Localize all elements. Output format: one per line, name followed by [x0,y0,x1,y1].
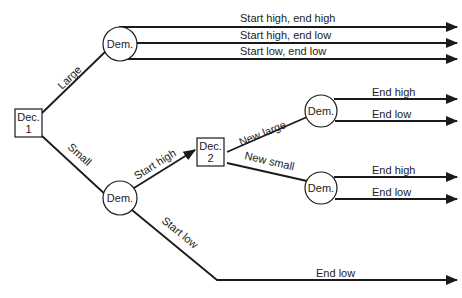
demand-node-new-large: Dem. [305,95,337,127]
demand-node-small-label: Dem. [107,192,133,204]
outcome-label-new-large-low: End low [372,108,411,120]
outcome-label-new-small-high: End high [372,164,415,176]
demand-node-small: Dem. [103,181,137,215]
decision-node-2: Dec. 2 [197,138,224,166]
outcome-label-large-1: Start high, end high [240,12,335,24]
demand-node-new-small: Dem. [305,172,337,204]
decision-node-1-line1: Dec. [17,111,40,123]
decision-node-1-line2: 1 [25,123,31,135]
edge-large [42,52,105,113]
demand-node-large-label: Dem. [107,38,133,50]
decision-tree-diagram: Dec. 1 Dem. Dem. Dec. 2 Dem. Dem. Large … [0,0,462,298]
demand-node-new-small-label: Dem. [308,182,334,194]
decision-node-2-line2: 2 [207,152,213,164]
outcome-label-new-small-low: End low [372,186,411,198]
edge-start-low [132,210,457,280]
edge-label-small: Small [66,141,94,168]
decision-node-2-line1: Dec. [199,140,222,152]
demand-node-large: Dem. [103,27,137,61]
decision-node-1: Dec. 1 [15,109,42,137]
outcome-label-start-low-end: End low [316,267,355,279]
outcome-label-large-3: Start low, end low [240,45,326,57]
edge-label-new-large: New large [237,118,287,148]
edge-label-start-low: Start low [160,214,201,250]
outcome-label-large-2: Start high, end low [240,29,331,41]
outcome-label-new-large-high: End high [372,86,415,98]
demand-node-new-large-label: Dem. [308,105,334,117]
